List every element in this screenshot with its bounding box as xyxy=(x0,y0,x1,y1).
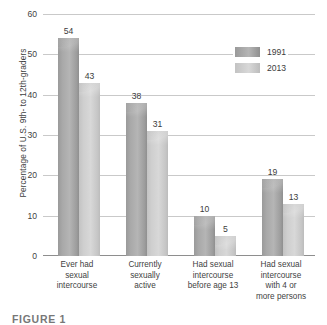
y-axis-tick-label: 20 xyxy=(27,170,37,180)
bar-body xyxy=(58,38,79,256)
bar-group: 3831 xyxy=(126,14,168,256)
bar-1991-2[interactable]: 38 xyxy=(126,103,147,256)
bar-value-label: 10 xyxy=(200,204,210,214)
x-axis-label: Currentlysexuallyactive xyxy=(111,260,179,292)
bar-value-label: 13 xyxy=(289,192,299,202)
legend-item-1991[interactable]: 1991 xyxy=(235,46,286,58)
bar-2013-1[interactable]: 43 xyxy=(79,83,100,256)
bar-body xyxy=(147,131,168,256)
bar-2013-4[interactable]: 13 xyxy=(283,204,304,256)
bar-value-label: 43 xyxy=(85,71,95,81)
y-axis-tick-label: 10 xyxy=(27,211,37,221)
x-axis-label-line: Currently xyxy=(111,260,179,271)
legend-swatch-2013 xyxy=(235,63,260,73)
bar-1991-1[interactable]: 54 xyxy=(58,38,79,256)
x-axis-label: Ever hadsexualintercourse xyxy=(43,260,111,292)
x-axis-label-line: Had sexual xyxy=(247,260,315,271)
bar-body xyxy=(79,83,100,256)
x-axis-label: Had sexualintercoursebefore age 13 xyxy=(179,260,247,292)
legend-item-2013[interactable]: 2013 xyxy=(235,62,286,74)
x-axis-label-line: active xyxy=(111,281,179,292)
x-axis-label: Had sexualintercoursewith 4 ormore perso… xyxy=(247,260,315,302)
bar-1991-4[interactable]: 19 xyxy=(262,179,283,256)
bar-body xyxy=(194,216,215,256)
bar-group: 5443 xyxy=(58,14,100,256)
bar-2013-2[interactable]: 31 xyxy=(147,131,168,256)
bar-1991-3[interactable]: 10 xyxy=(194,216,215,256)
figure-caption: FIGURE 1 xyxy=(12,313,66,325)
x-axis-label-line: intercourse xyxy=(247,271,315,282)
bar-value-label: 5 xyxy=(223,224,228,234)
legend-label-2013: 2013 xyxy=(267,63,286,73)
y-axis-tick-label: 60 xyxy=(27,9,37,19)
x-axis-label-line: sexually xyxy=(111,271,179,282)
x-axis-label-line: sexual xyxy=(43,271,111,282)
x-axis-label-line: with 4 or xyxy=(247,281,315,292)
bar-value-label: 31 xyxy=(153,119,163,129)
bar-body xyxy=(215,236,236,256)
legend-swatch-1991 xyxy=(235,47,260,57)
bar-group: 105 xyxy=(194,14,236,256)
bar-body xyxy=(262,179,283,256)
x-axis-label-line: before age 13 xyxy=(179,281,247,292)
y-axis-tick-label: 40 xyxy=(27,90,37,100)
legend-label-1991: 1991 xyxy=(267,47,286,57)
x-axis-label-line: Had sexual xyxy=(179,260,247,271)
x-axis-label-line: Ever had xyxy=(43,260,111,271)
y-axis-tick-label: 30 xyxy=(27,130,37,140)
x-axis-label-line: intercourse xyxy=(43,281,111,292)
x-axis-labels: Ever hadsexualintercourseCurrentlysexual… xyxy=(43,260,315,320)
y-axis-tick-label: 50 xyxy=(27,49,37,59)
legend: 1991 2013 xyxy=(233,44,288,76)
bar-value-label: 54 xyxy=(64,26,74,36)
bar-body xyxy=(283,204,304,256)
bar-value-label: 19 xyxy=(268,167,278,177)
bar-value-label: 38 xyxy=(132,91,142,101)
x-axis-label-line: intercourse xyxy=(179,271,247,282)
x-axis-label-line: more persons xyxy=(247,292,315,303)
bar-body xyxy=(126,103,147,256)
bar-2013-3[interactable]: 5 xyxy=(215,236,236,256)
y-axis-tick-label: 0 xyxy=(32,251,37,261)
